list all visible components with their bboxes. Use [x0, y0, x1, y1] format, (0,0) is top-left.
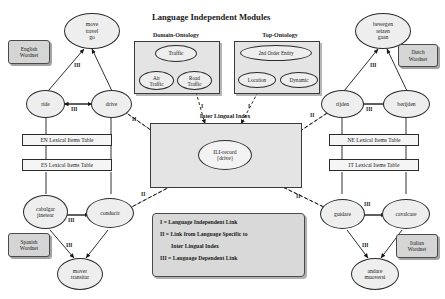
italian-guidare-node[interactable]: guidare	[320, 199, 365, 229]
dutch-berijden-node[interactable]: berijden	[383, 90, 430, 118]
link-label-es-iii-top: III	[68, 217, 75, 223]
spanish-wordnet-box[interactable]: Spanish Wordnet	[8, 233, 50, 257]
link-label-ii-bottom-left: II	[141, 191, 145, 197]
spanish-wordnet-line2: Wordnet	[20, 245, 38, 251]
link-label-en-iii-mid: III	[71, 106, 78, 112]
english-top-node[interactable]: move travel go	[64, 13, 120, 49]
link-label-i-right: I	[248, 103, 250, 109]
link-label-it-iii-bottom: III	[362, 242, 369, 248]
domain-air-traffic-node[interactable]: Air Traffic	[139, 71, 174, 90]
link-label-es-iii-bottom: III	[66, 242, 73, 248]
english-ride-node[interactable]: ride	[26, 90, 65, 118]
dutch-top-line3: gaan	[378, 34, 389, 40]
domain-air-traffic-line2: Traffic	[149, 81, 163, 87]
dutch-wordnet-box[interactable]: Dutch Wordnet	[398, 44, 438, 67]
top-location-node[interactable]: Location	[238, 72, 276, 88]
es-lexical-items-table[interactable]: ES Lexical Items Table	[22, 159, 112, 171]
link-label-it-iii-top: III	[364, 201, 371, 207]
english-wordnet-line2: Wordnet	[20, 52, 38, 58]
dutch-wordnet-line2: Wordnet	[409, 56, 427, 62]
spanish-mover-node[interactable]: mover transitar	[57, 258, 103, 290]
ili-caption: Inter Lingual Index	[174, 113, 276, 119]
english-drive-node[interactable]: drive	[91, 90, 132, 118]
link-label-i-left: I	[201, 103, 203, 109]
link-label-ne-iii-mid: III	[366, 106, 373, 112]
italian-cavalcare-node[interactable]: cavalcare	[382, 199, 430, 229]
ili-record-line2: {drive}	[217, 155, 234, 161]
spanish-conducir-node[interactable]: conducir	[86, 198, 134, 228]
legend-line-1: I = Language Independent Link	[160, 219, 297, 226]
legend-line-2b: Inter Lingual Index	[160, 243, 297, 250]
link-label-ii-bottom-right: II	[296, 193, 300, 199]
legend-line-2a: II = Link from Language Specific to	[160, 231, 297, 238]
ne-lexical-items-table[interactable]: NE Lexical Items Table	[329, 134, 419, 146]
spanish-cabalgar-node[interactable]: cabalgar jinetear	[23, 195, 68, 229]
italian-wordnet-box[interactable]: Italian Wordnet	[396, 234, 438, 258]
legend-box: I = Language Independent Link II = Link …	[152, 213, 305, 277]
spanish-mover-line2: transitar	[71, 274, 89, 280]
it-lexical-items-table[interactable]: IT Lexical Items Table	[329, 159, 419, 171]
spanish-cabalgar-line2: jinetear	[37, 212, 54, 218]
legend-line-3: III = Language Dependent Link	[160, 255, 297, 262]
italian-wordnet-line2: Wordnet	[408, 246, 426, 252]
ili-record-node[interactable]: ILI-record {drive}	[198, 140, 252, 170]
link-label-ii-top-left: II	[132, 116, 136, 122]
italian-andare-node[interactable]: andare muoversi	[351, 258, 399, 290]
domain-root-node[interactable]: Traffic	[155, 45, 197, 62]
diagram-canvas: Language Independent Modules Domain-Onto…	[0, 0, 445, 299]
italian-andare-line2: muoversi	[365, 274, 386, 280]
domain-road-traffic-line2: Traffic	[187, 81, 201, 87]
dutch-rijden-node[interactable]: rijden	[321, 90, 364, 118]
top-ontology-caption: Top-Ontology	[248, 32, 312, 38]
link-label-ii-top-right: II	[310, 112, 314, 118]
en-lexical-items-table[interactable]: EN Lexical Items Table	[22, 134, 112, 146]
domain-ontology-caption: Domain-Ontology	[140, 32, 212, 38]
link-label-ne-iii-top: III	[370, 62, 377, 68]
top-root-node[interactable]: 2nd Order Entity	[240, 45, 312, 61]
domain-road-traffic-node[interactable]: Road Traffic	[177, 71, 212, 90]
english-wordnet-box[interactable]: English Wordnet	[8, 40, 50, 64]
page-title: Language Independent Modules	[152, 12, 270, 22]
top-dynamic-node[interactable]: Dynamic	[280, 72, 318, 88]
english-top-line3: go	[89, 34, 95, 40]
link-label-en-iii-top: III	[74, 62, 81, 68]
